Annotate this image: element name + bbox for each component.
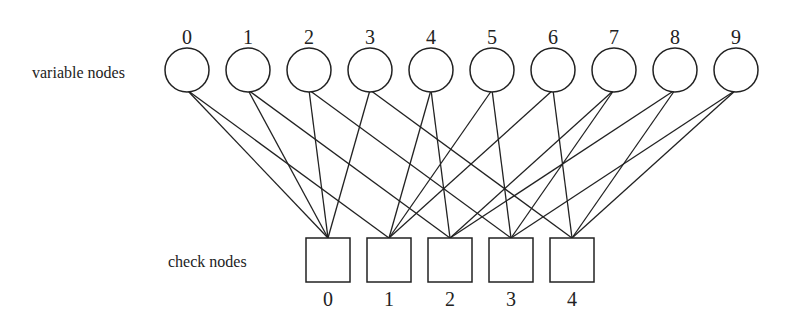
check-node-index: 3 (506, 288, 516, 310)
variable-node-index: 0 (182, 26, 192, 48)
variable-node-3: 3 (348, 26, 392, 92)
edge-v5-c3 (492, 90, 511, 238)
variable-node-index: 7 (609, 26, 619, 48)
edge-v7-c2 (450, 90, 614, 238)
variable-node-index: 1 (243, 26, 253, 48)
variable-node-index: 3 (365, 26, 375, 48)
edge-v9-c4 (572, 90, 736, 238)
check-node-index: 0 (323, 288, 333, 310)
variable-node-7: 7 (592, 26, 636, 92)
check-node-square (489, 238, 533, 282)
edge-v1-c0 (248, 90, 328, 238)
check-node-3: 3 (489, 238, 533, 310)
variable-node-4: 4 (409, 26, 453, 92)
check-node-0: 0 (306, 238, 350, 310)
tanner-graph: 0123456789 01234 variable nodes check no… (0, 0, 794, 329)
check-node-square (306, 238, 350, 282)
variable-node-circle (714, 48, 758, 92)
variable-node-index: 2 (304, 26, 314, 48)
edge-v5-c1 (389, 90, 492, 238)
check-node-index: 4 (567, 288, 577, 310)
edge-v2-c0 (309, 90, 328, 238)
variable-node-9: 9 (714, 26, 758, 92)
edge-v6-c1 (389, 90, 553, 238)
variable-nodes-label: variable nodes (32, 64, 125, 81)
variable-node-0: 0 (165, 26, 209, 92)
variable-node-circle (409, 48, 453, 92)
check-nodes-label: check nodes (168, 253, 247, 270)
edge-v3-c0 (328, 90, 370, 238)
variable-node-1: 1 (226, 26, 270, 92)
variable-node-index: 9 (731, 26, 741, 48)
variable-node-6: 6 (531, 26, 575, 92)
edges (187, 90, 736, 238)
variable-node-2: 2 (287, 26, 331, 92)
variable-node-circle (592, 48, 636, 92)
check-node-1: 1 (367, 238, 411, 310)
variable-node-circle (653, 48, 697, 92)
variable-node-circle (165, 48, 209, 92)
variable-node-8: 8 (653, 26, 697, 92)
check-node-square (550, 238, 594, 282)
variable-node-5: 5 (470, 26, 514, 92)
variable-node-circle (287, 48, 331, 92)
check-node-4: 4 (550, 238, 594, 310)
variable-nodes: 0123456789 (165, 26, 758, 92)
variable-node-index: 8 (670, 26, 680, 48)
edge-v9-c3 (511, 90, 736, 238)
variable-node-circle (226, 48, 270, 92)
edge-v8-c2 (450, 90, 675, 238)
variable-node-circle (348, 48, 392, 92)
variable-node-index: 6 (548, 26, 558, 48)
variable-node-circle (531, 48, 575, 92)
check-node-square (428, 238, 472, 282)
check-nodes: 01234 (306, 238, 594, 310)
check-node-index: 1 (384, 288, 394, 310)
variable-node-index: 5 (487, 26, 497, 48)
edge-v4-c1 (389, 90, 431, 238)
check-node-index: 2 (445, 288, 455, 310)
edge-v0-c0 (187, 90, 328, 238)
check-node-2: 2 (428, 238, 472, 310)
variable-node-index: 4 (426, 26, 436, 48)
variable-node-circle (470, 48, 514, 92)
check-node-square (367, 238, 411, 282)
